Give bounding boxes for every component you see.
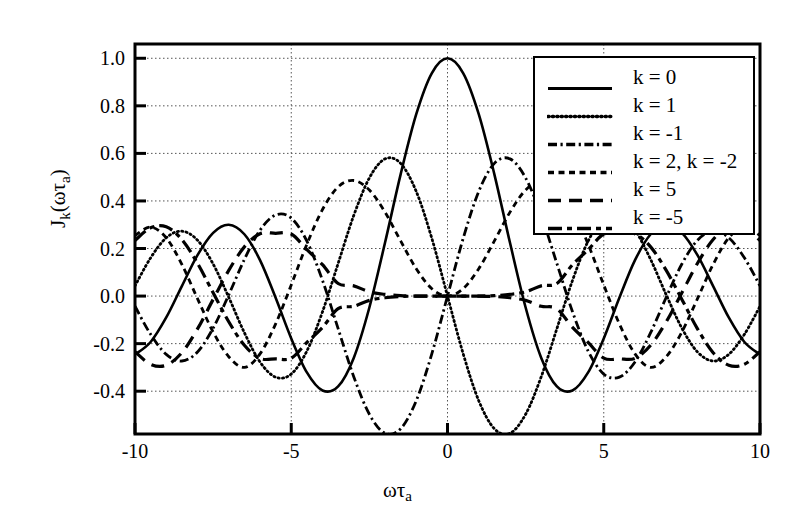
legend: k = 0k = 1k = -1k = 2, k = -2k = 5k = -5 xyxy=(533,56,755,235)
legend-item: k = -1 xyxy=(535,120,753,148)
legend-line-sample xyxy=(547,77,613,81)
legend-line-sample xyxy=(547,189,613,193)
bessel-function-chart: Jk(ωτa) ωτa 1.00.80.60.40.20.0-0.2-0.4 -… xyxy=(0,0,809,520)
legend-line-sample xyxy=(547,161,613,165)
legend-label: k = -5 xyxy=(633,205,683,230)
legend-line-sample xyxy=(547,217,613,221)
legend-item: k = 5 xyxy=(535,176,753,204)
legend-line-svg xyxy=(547,86,613,91)
legend-item: k = -5 xyxy=(535,204,753,232)
legend-label: k = 2, k = -2 xyxy=(633,149,737,174)
legend-label: k = -1 xyxy=(633,121,683,146)
legend-item: k = 0 xyxy=(535,64,753,92)
legend-line-svg xyxy=(547,198,613,203)
legend-line-svg xyxy=(547,114,613,119)
legend-line-svg xyxy=(547,170,613,175)
legend-item: k = 1 xyxy=(535,92,753,120)
legend-line-svg xyxy=(547,226,613,231)
legend-line-svg xyxy=(547,142,613,147)
legend-item: k = 2, k = -2 xyxy=(535,148,753,176)
legend-label: k = 5 xyxy=(633,177,676,202)
legend-line-sample xyxy=(547,133,613,137)
legend-label: k = 0 xyxy=(633,65,676,90)
legend-label: k = 1 xyxy=(633,93,676,118)
legend-line-sample xyxy=(547,105,613,109)
